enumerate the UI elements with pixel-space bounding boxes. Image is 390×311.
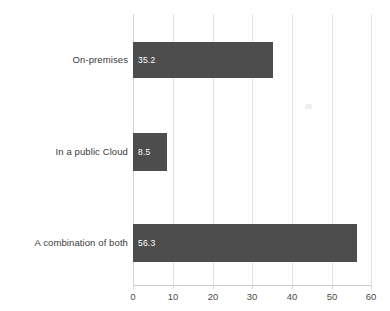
tick-mark-50 <box>332 285 333 289</box>
bar-chart: 35.2 8.5 56.3 On-premises In a public Cl… <box>0 0 390 311</box>
tick-mark-60 <box>371 285 372 289</box>
category-axis-labels: On-premises In a public Cloud A combinat… <box>0 0 128 311</box>
x-tick-label-0: 0 <box>130 291 135 302</box>
plot-area: 35.2 8.5 56.3 <box>133 14 372 285</box>
tick-mark-10 <box>173 285 174 289</box>
bar-value-on-premises: 35.2 <box>138 56 155 65</box>
scan-artifact <box>305 104 312 109</box>
tick-mark-40 <box>292 285 293 289</box>
x-tick-label-50: 50 <box>327 291 338 302</box>
category-label-a-combination-of-both: A combination of both <box>0 237 128 248</box>
bar-on-premises[interactable]: 35.2 <box>133 42 273 78</box>
tick-mark-30 <box>252 285 253 289</box>
x-tick-label-60: 60 <box>366 291 377 302</box>
bar-row-a-combination-of-both: 56.3 <box>133 224 372 262</box>
x-tick-label-10: 10 <box>168 291 179 302</box>
bar-value-a-combination-of-both: 56.3 <box>138 239 155 248</box>
category-label-on-premises: On-premises <box>0 54 128 65</box>
bar-row-in-a-public-cloud: 8.5 <box>133 133 372 171</box>
bar-a-combination-of-both[interactable]: 56.3 <box>133 224 357 262</box>
x-tick-label-40: 40 <box>287 291 298 302</box>
x-tick-label-30: 30 <box>247 291 258 302</box>
category-label-in-a-public-cloud: In a public Cloud <box>0 146 128 157</box>
tick-mark-0 <box>133 285 134 289</box>
bar-in-a-public-cloud[interactable]: 8.5 <box>133 133 167 171</box>
bar-value-in-a-public-cloud: 8.5 <box>138 148 150 157</box>
bar-row-on-premises: 35.2 <box>133 42 372 78</box>
x-tick-label-20: 20 <box>208 291 219 302</box>
tick-mark-20 <box>213 285 214 289</box>
